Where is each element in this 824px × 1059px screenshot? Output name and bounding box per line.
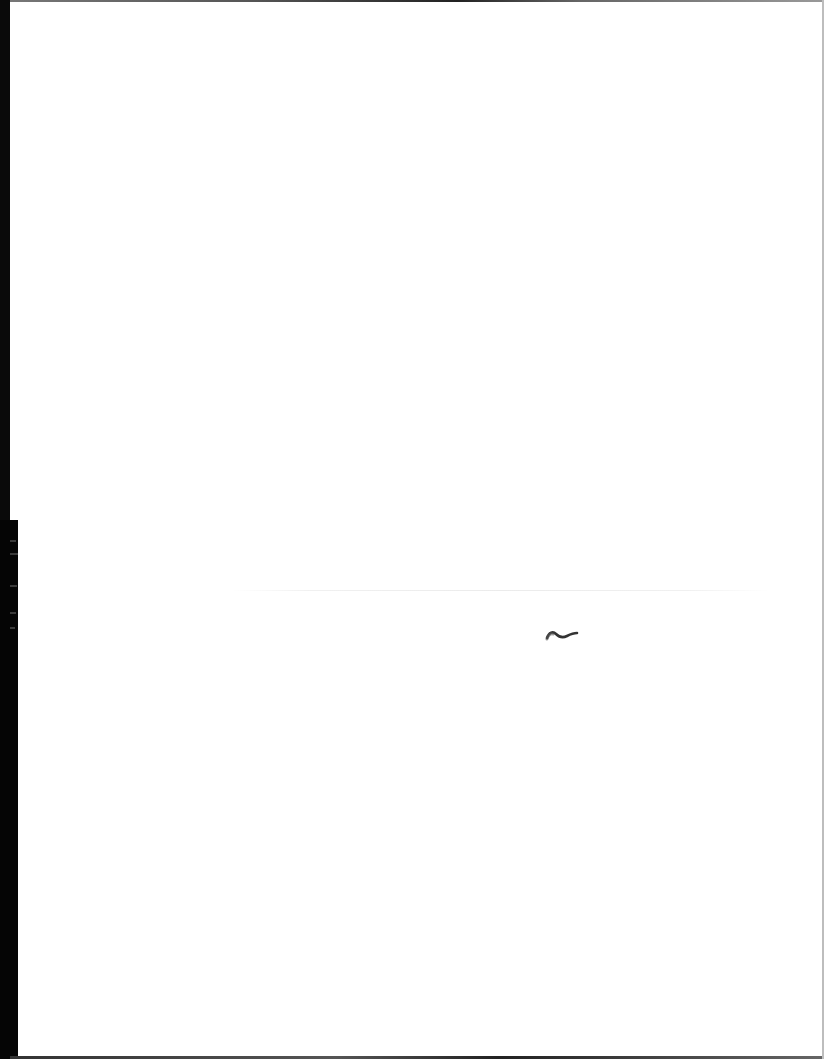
scanner-edge-artifact bbox=[10, 540, 16, 542]
scanned-page bbox=[0, 0, 824, 1059]
scanner-edge-artifact bbox=[10, 627, 15, 629]
ink-squiggle-icon bbox=[545, 628, 579, 642]
page-border-top bbox=[10, 0, 824, 2]
scanner-edge-artifact bbox=[10, 612, 16, 614]
scanner-edge-shadow bbox=[0, 520, 18, 1059]
fold-line bbox=[230, 590, 770, 591]
scanner-edge-artifact bbox=[10, 553, 18, 555]
scanner-edge-artifact bbox=[10, 585, 17, 587]
